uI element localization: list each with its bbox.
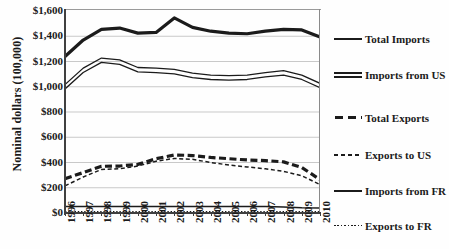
legend-label: Exports to FR	[363, 220, 432, 232]
x-axis-tick-mark	[83, 213, 84, 216]
x-axis-tick-mark	[120, 213, 121, 216]
legend-item-total-exports[interactable]: Total Exports	[333, 110, 449, 126]
x-axis-tick-mark	[211, 213, 212, 216]
legend-swatch-icon	[333, 68, 363, 82]
chart-figure: Nominal dollars (100,000) $0$200$400$600…	[0, 0, 449, 249]
x-axis-tick-label: 2007	[265, 199, 277, 233]
x-axis-tick-label: 2002	[174, 199, 186, 233]
chart-legend: Total ImportsImports from USTotal Export…	[333, 0, 449, 249]
x-axis-tick-mark	[193, 213, 194, 216]
x-axis-tick-label: 2006	[247, 199, 259, 233]
x-axis-tick-label: 2000	[138, 199, 150, 233]
legend-label: Imports from US	[363, 69, 445, 81]
x-axis-tick-mark	[174, 213, 175, 216]
legend-item-imports-from-us[interactable]: Imports from US	[333, 67, 449, 83]
x-axis-tick-label: 2008	[284, 199, 296, 233]
legend-label: Imports from FR	[363, 185, 446, 197]
x-axis-tick-label: 2009	[302, 199, 314, 233]
x-axis-tick-mark	[302, 213, 303, 216]
legend-swatch-icon	[333, 184, 363, 198]
x-axis-tick-mark	[101, 213, 102, 216]
x-axis-tick-mark	[65, 213, 66, 216]
x-axis-tick-mark	[320, 213, 321, 216]
x-axis-tick-label: 2001	[156, 199, 168, 233]
x-axis-tick-mark	[265, 213, 266, 216]
x-axis-tick-label: 1999	[120, 199, 132, 233]
legend-label: Total Imports	[363, 33, 430, 45]
legend-item-total-imports[interactable]: Total Imports	[333, 31, 449, 47]
x-axis-tick-label: 1998	[101, 199, 113, 233]
x-axis-tick-mark	[247, 213, 248, 216]
x-axis-tick-label: 1996	[65, 199, 77, 233]
legend-swatch-icon	[333, 111, 363, 125]
x-axis-tick-mark	[229, 213, 230, 216]
x-axis-tick-mark	[284, 213, 285, 216]
legend-label: Total Exports	[363, 112, 429, 124]
x-axis-tick-label: 2005	[229, 199, 241, 233]
legend-swatch-icon	[333, 148, 363, 162]
x-axis-tick-label: 2010	[320, 199, 332, 233]
x-axis-tick-mark	[138, 213, 139, 216]
legend-item-exports-to-us[interactable]: Exports to US	[333, 147, 449, 163]
legend-swatch-icon	[333, 32, 363, 46]
legend-item-exports-to-fr[interactable]: Exports to FR	[333, 218, 449, 234]
legend-item-imports-from-fr[interactable]: Imports from FR	[333, 183, 449, 199]
legend-label: Exports to US	[363, 149, 431, 161]
x-axis-tick-label: 2004	[211, 199, 223, 233]
legend-swatch-icon	[333, 219, 363, 233]
x-axis-tick-mark	[156, 213, 157, 216]
x-axis-tick-label: 2003	[193, 199, 205, 233]
x-axis-tick-label: 1997	[83, 199, 95, 233]
